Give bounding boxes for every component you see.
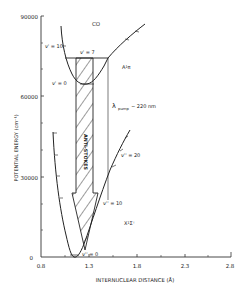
a-state-curve <box>61 24 145 84</box>
v-lower-10-label: ν'' = 10 <box>103 200 122 206</box>
x-tick-0.8: 0.8 <box>37 263 46 269</box>
state-a-label: A¹π <box>122 64 130 70</box>
y-axis <box>41 16 44 257</box>
potential-energy-figure: 90000 60000 30000 0 0.8 1.3 1.8 2.3 2.8 … <box>0 0 245 296</box>
state-x-label: X¹Σ⁺ <box>124 220 136 226</box>
v-upper-0-label: ν' = 0 <box>52 80 67 86</box>
v-lower-0-label: ν'' = 0 <box>82 251 98 257</box>
y-tick-60000: 60000 <box>21 94 39 100</box>
pump-lambda: λ <box>112 102 116 110</box>
x-axis <box>41 252 231 257</box>
y-tick-0: 0 <box>30 255 34 261</box>
y-tick-90000: 90000 <box>21 14 39 20</box>
x-axis-label: INTERNUCLEAR DISTANCE (Å) <box>96 277 175 283</box>
v-lower-20-label: ν'' = 20 <box>121 152 140 158</box>
y-tick-30000: 30000 <box>21 175 39 181</box>
chart-svg: 90000 60000 30000 0 0.8 1.3 1.8 2.3 2.8 … <box>0 0 245 296</box>
x-tick-1.3: 1.3 <box>85 263 94 269</box>
pump-subscript: pump <box>118 106 130 111</box>
v-upper-10-label: ν' = 10 <box>45 43 63 49</box>
x-tick-2.8: 2.8 <box>226 263 235 269</box>
x-tick-2.3: 2.3 <box>181 263 190 269</box>
y-axis-label: POTENTIAL ENERGY (cm⁻¹) <box>13 114 19 181</box>
chart-title: CO <box>92 21 101 27</box>
pump-wavelength: ~ 220 nm <box>131 103 156 109</box>
v-upper-7-label: ν' = 7 <box>80 49 95 55</box>
x-tick-1.8: 1.8 <box>133 263 142 269</box>
